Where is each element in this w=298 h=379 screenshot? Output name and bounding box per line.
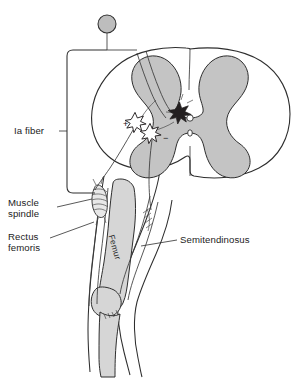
muscle-spindle-label-line1: Muscle [8,197,39,208]
reflex-arc-figure: Femur [0,0,298,379]
semitendinosus-label: Semitendinosus [180,234,250,245]
central-canal [187,115,193,121]
ia-fiber-label: Ia fiber [14,125,45,136]
rectus-femoris-label-line1: Rectus [8,231,39,242]
excitatory-sign: + [123,119,128,129]
rectus-femoris-label-line2: femoris [8,242,40,253]
inhibitory-sign: − [163,133,168,143]
dorsal-root-ganglion [98,15,116,33]
ventral-commissure [188,130,193,136]
white-matter-outline [92,48,290,178]
muscle-spindle-label-line2: spindle [8,208,39,219]
